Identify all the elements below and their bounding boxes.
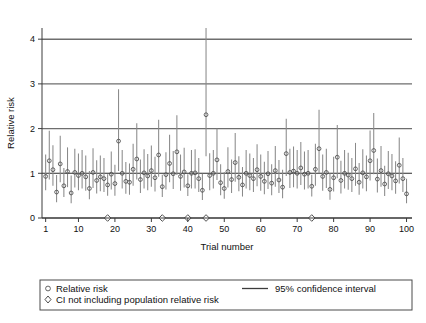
relative-risk-marker-group: [44, 113, 409, 196]
x-tick-label: 20: [110, 224, 120, 234]
legend-diamond-icon: [45, 296, 51, 303]
x-tick-label: 50: [219, 224, 229, 234]
x-tick-label: 60: [256, 224, 266, 234]
x-tick-label: 40: [183, 224, 193, 234]
y-axis-title: Relative risk: [5, 97, 16, 149]
y-tick-label: 3: [30, 79, 35, 89]
x-tick-label: 70: [292, 224, 302, 234]
legend-circle-icon: [46, 286, 51, 291]
legend-label-confidence-interval: 95% confidence interval: [275, 283, 376, 294]
x-tick-label: 1: [43, 224, 48, 234]
legend-label-flagged-ci: CI not including population relative ris…: [56, 294, 219, 305]
figure-container: 1102030405060708090100 01234 Trial numbe…: [0, 0, 426, 323]
axis-group: [42, 28, 412, 218]
y-tick-label: 2: [30, 124, 35, 134]
x-tick-label: 10: [73, 224, 83, 234]
x-tick-label: 100: [399, 224, 414, 234]
x-axis-title: Trial number: [201, 241, 254, 252]
y-tick-label: 1: [30, 169, 35, 179]
y-tick-label: 0: [30, 213, 35, 223]
y-axis-tick-group: 01234: [30, 34, 42, 223]
x-axis-tick-group: 1102030405060708090100: [43, 218, 414, 234]
legend-label-relative-risk: Relative risk: [56, 283, 108, 294]
y-tick-label: 4: [30, 34, 35, 44]
x-tick-label: 80: [329, 224, 339, 234]
relative-risk-scatter-chart: 1102030405060708090100 01234 Trial numbe…: [0, 0, 426, 323]
x-tick-label: 90: [365, 224, 375, 234]
x-tick-label: 30: [146, 224, 156, 234]
chart-legend: Relative risk 95% confidence interval CI…: [40, 280, 412, 310]
gridline-group: [42, 39, 412, 218]
